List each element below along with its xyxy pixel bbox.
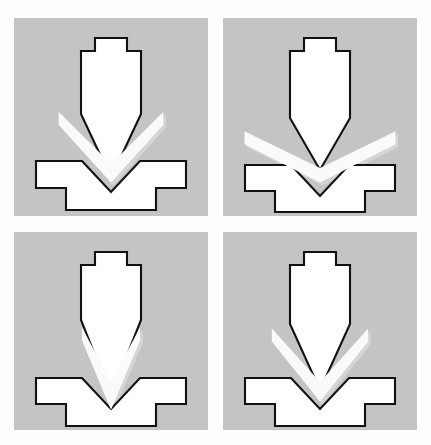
panel-top-right: [223, 18, 417, 216]
panel-bottom-left: [14, 232, 208, 430]
panel-bottom-right: [223, 232, 417, 430]
v-bending-figure: [0, 0, 431, 445]
panel-top-left: [14, 18, 208, 216]
